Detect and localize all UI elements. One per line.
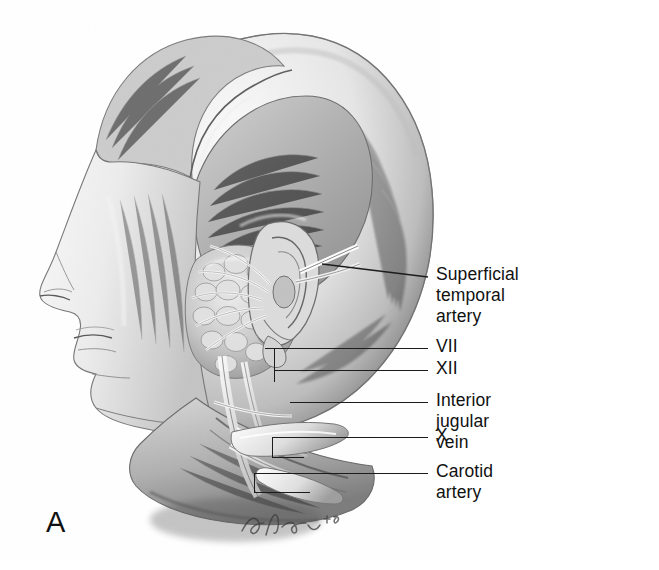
callout-label-cn-x: X bbox=[436, 425, 448, 446]
leader-line-interior-jugular-vein bbox=[290, 402, 428, 403]
artist-signature bbox=[236, 505, 356, 545]
leader-stem-cn-x bbox=[272, 437, 273, 458]
callout-label-carotid-artery: Carotid artery bbox=[436, 461, 493, 503]
leader-stem-carotid-artery bbox=[254, 473, 255, 492]
leader-line-cn-vii bbox=[265, 348, 428, 349]
callout-label-superficial-temporal-artery: Superficial temporal artery bbox=[436, 264, 519, 327]
callout-label-cn-vii: VII bbox=[436, 336, 458, 357]
panel-letter: A bbox=[46, 506, 66, 539]
leader-line-carotid-artery bbox=[254, 473, 428, 474]
leader-stem-cn-xii bbox=[274, 348, 275, 382]
leader-line-cn-xii bbox=[274, 370, 428, 371]
leader-line-cn-x bbox=[272, 437, 428, 438]
leader-line-superficial-temporal-artery bbox=[320, 255, 435, 290]
leader-tick-carotid-artery bbox=[254, 492, 310, 493]
figure-panel: Superficial temporal artery VII XII Inte… bbox=[0, 0, 659, 570]
callout-label-cn-xii: XII bbox=[436, 358, 458, 379]
leader-tick-cn-x bbox=[272, 457, 304, 458]
